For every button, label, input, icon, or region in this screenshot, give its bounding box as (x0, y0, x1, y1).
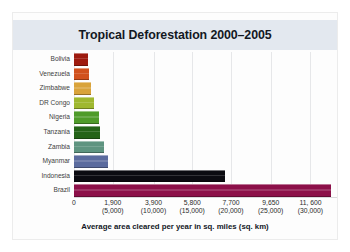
bar (74, 170, 225, 183)
bar-row: Zambia (13, 140, 337, 155)
bar-track (74, 154, 337, 169)
x-axis-ticks: 01,900(5,000)3,900(10,000)5,800(15,000)7… (13, 198, 337, 224)
bar-row: Venezuela (13, 67, 337, 82)
x-tick: 11, 600(30,000) (298, 199, 323, 214)
bar-row: Myanmar (13, 154, 337, 169)
bar-category-label: Nigeria (13, 114, 70, 121)
bar-track (74, 169, 337, 184)
bar-track (74, 110, 337, 125)
bar-track (74, 67, 337, 82)
x-tick-label-miles: 1,900 (102, 199, 124, 207)
x-axis-title: Average area cleared per year in sq. mil… (13, 222, 337, 231)
bar-category-label: DR Congo (13, 100, 70, 107)
x-tick: 1,900(5,000) (102, 199, 124, 214)
bar-row: Tanzania (13, 125, 337, 140)
bar (74, 184, 331, 197)
x-tick-label-km: (30,000) (298, 207, 323, 215)
bar-category-label: Indonesia (13, 173, 70, 180)
x-tick: 9,650(25,000) (258, 199, 283, 214)
x-tick-label-km: (5,000) (102, 207, 124, 215)
x-tick-label-km: (10,000) (141, 207, 166, 215)
x-tick-label-km: (25,000) (258, 207, 283, 215)
chart-figure: Tropical Deforestation 2000–2005 Bolivia… (13, 13, 337, 239)
bar (74, 97, 94, 110)
plot-area: BoliviaVenezuelaZimbabweDR CongoNigeriaT… (13, 52, 337, 198)
bar-category-label: Tanzania (13, 129, 70, 136)
x-tick-label-miles: 5,800 (180, 199, 205, 207)
bar (74, 155, 108, 168)
bar-category-label: Brazil (13, 187, 70, 194)
bar (74, 53, 88, 66)
bar-track (74, 96, 337, 111)
bar-row: Bolivia (13, 52, 337, 67)
bar-row: Brazil (13, 183, 337, 198)
x-tick: 5,800(15,000) (180, 199, 205, 214)
bar-category-label: Venezuela (13, 71, 70, 78)
bar (74, 126, 100, 139)
bar-track (74, 140, 337, 155)
x-tick-label-km: (15,000) (180, 207, 205, 215)
x-tick: 0 (72, 199, 76, 207)
bar-row: DR Congo (13, 96, 337, 111)
bar-category-label: Zimbabwe (13, 85, 70, 92)
x-tick-label-km: (20,000) (218, 207, 243, 215)
bar-category-label: Bolivia (13, 56, 70, 63)
chart-title: Tropical Deforestation 2000–2005 (78, 28, 271, 42)
bar (74, 111, 99, 124)
chart-title-band: Tropical Deforestation 2000–2005 (13, 20, 337, 50)
bar-track (74, 183, 337, 198)
bar (74, 141, 104, 154)
bar (74, 82, 91, 95)
bar-category-label: Zambia (13, 144, 70, 151)
bar-row: Zimbabwe (13, 81, 337, 96)
bar-row: Nigeria (13, 110, 337, 125)
x-tick-label-miles: 11, 600 (298, 199, 323, 207)
x-tick: 7,700(20,000) (218, 199, 243, 214)
bar-row: Indonesia (13, 169, 337, 184)
x-tick-label-miles: 7,700 (218, 199, 243, 207)
bar-category-label: Myanmar (13, 158, 70, 165)
x-tick-label-miles: 9,650 (258, 199, 283, 207)
x-tick-label-miles: 0 (72, 199, 76, 207)
x-tick-label-miles: 3,900 (141, 199, 166, 207)
bar-track (74, 52, 337, 67)
bar-track (74, 81, 337, 96)
x-tick: 3,900(10,000) (141, 199, 166, 214)
bar (74, 68, 89, 81)
bar-track (74, 125, 337, 140)
